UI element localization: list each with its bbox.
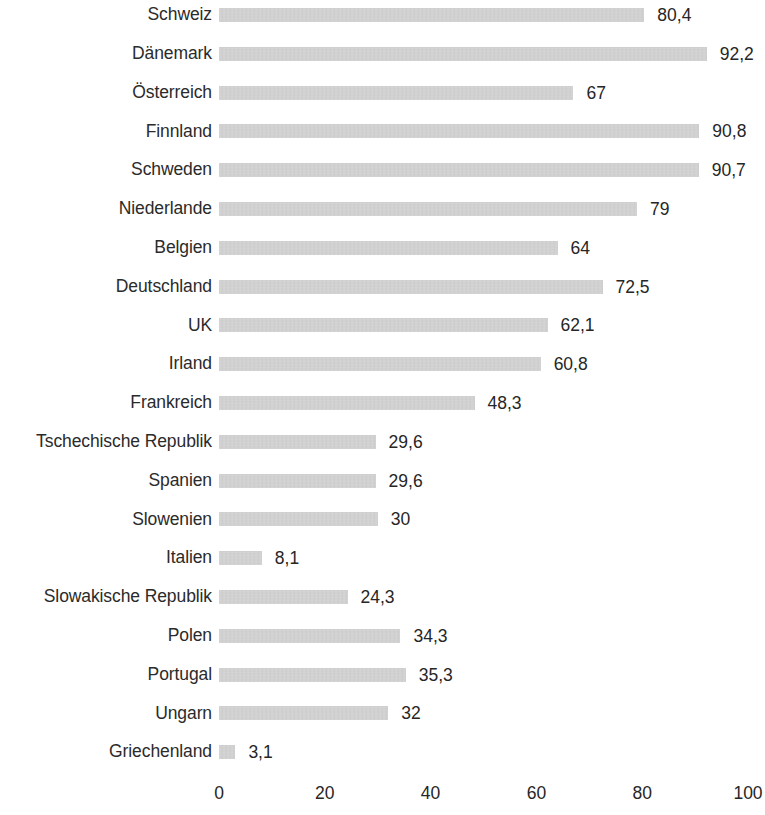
bar-value-label: 62,1 [561,316,595,334]
bar [219,435,376,449]
bar-value-label: 3,1 [248,743,272,761]
category-label: Schweden [0,161,212,179]
category-label: Österreich [0,84,212,102]
bar-value-label: 60,8 [554,355,588,373]
x-tick-label: 0 [214,783,224,803]
bar-row: Italien8,1 [0,543,765,573]
bar-row: Slowakische Republik24,3 [0,582,765,612]
bar-value-label: 79 [650,200,669,218]
bar-value-label: 72,5 [616,278,650,296]
chart-plot-area: Schweiz80,4Dänemark92,2Österreich67Finnl… [0,0,765,775]
bar [219,280,603,294]
category-label: Belgien [0,239,212,257]
bar-row: Schweden90,7 [0,155,765,185]
bar-row: Portugal35,3 [0,660,765,690]
bar-value-label: 35,3 [419,666,453,684]
bar-value-label: 29,6 [389,472,423,490]
bar-chart: Schweiz80,4Dänemark92,2Österreich67Finnl… [0,0,765,815]
category-label: Portugal [0,666,212,684]
bar-value-label: 48,3 [488,394,522,412]
bar [219,241,558,255]
bar-value-label: 90,8 [712,122,746,140]
bar-value-label: 29,6 [389,433,423,451]
bar-row: Österreich67 [0,78,765,108]
category-label: Polen [0,627,212,645]
bar [219,551,262,565]
bar-row: Deutschland72,5 [0,272,765,302]
bar [219,590,348,604]
bar-row: Griechenland3,1 [0,737,765,767]
bar [219,163,699,177]
category-label: Frankreich [0,394,212,412]
bar [219,629,400,643]
bar-row: Belgien64 [0,233,765,263]
bar [219,124,699,138]
bar-row: Finnland90,8 [0,116,765,146]
category-label: Niederlande [0,200,212,218]
x-tick-label: 100 [733,783,762,803]
bar-row: Frankreich48,3 [0,388,765,418]
category-label: UK [0,317,212,335]
category-label: Slowenien [0,511,212,529]
bar-row: Slowenien30 [0,504,765,534]
category-label: Slowakische Republik [0,588,212,606]
bar-row: Schweiz80,4 [0,0,765,30]
bar-row: Niederlande79 [0,194,765,224]
bar [219,474,376,488]
bar [219,8,644,22]
bar-row: Tschechische Republik29,6 [0,427,765,457]
x-axis: 020406080100 [0,783,765,809]
bar [219,357,541,371]
category-label: Deutschland [0,278,212,296]
bar-value-label: 64 [571,239,590,257]
bar [219,202,637,216]
bar-value-label: 8,1 [275,549,299,567]
bar-value-label: 34,3 [413,627,447,645]
bar [219,47,707,61]
bar-row: UK62,1 [0,310,765,340]
bar [219,318,548,332]
bar-row: Ungarn32 [0,698,765,728]
category-label: Ungarn [0,705,212,723]
bar-value-label: 32 [401,704,420,722]
bar-row: Dänemark92,2 [0,39,765,69]
category-label: Dänemark [0,45,212,63]
category-label: Finnland [0,123,212,141]
bar-row: Spanien29,6 [0,466,765,496]
category-label: Spanien [0,472,212,490]
category-label: Irland [0,355,212,373]
bar [219,706,388,720]
bar [219,668,406,682]
category-label: Griechenland [0,743,212,761]
bar-value-label: 30 [391,510,410,528]
bar [219,512,378,526]
bar-value-label: 24,3 [361,588,395,606]
bar [219,86,573,100]
x-tick-label: 80 [632,783,651,803]
bar-value-label: 92,2 [720,45,754,63]
bar-row: Irland60,8 [0,349,765,379]
category-label: Schweiz [0,6,212,24]
category-label: Tschechische Republik [0,433,212,451]
category-label: Italien [0,549,212,567]
x-tick-label: 60 [527,783,546,803]
bar [219,745,235,759]
bar [219,396,475,410]
bar-value-label: 80,4 [657,6,691,24]
bar-value-label: 90,7 [712,161,746,179]
x-tick-label: 20 [315,783,334,803]
bar-row: Polen34,3 [0,621,765,651]
bar-value-label: 67 [586,84,605,102]
x-tick-label: 40 [421,783,440,803]
